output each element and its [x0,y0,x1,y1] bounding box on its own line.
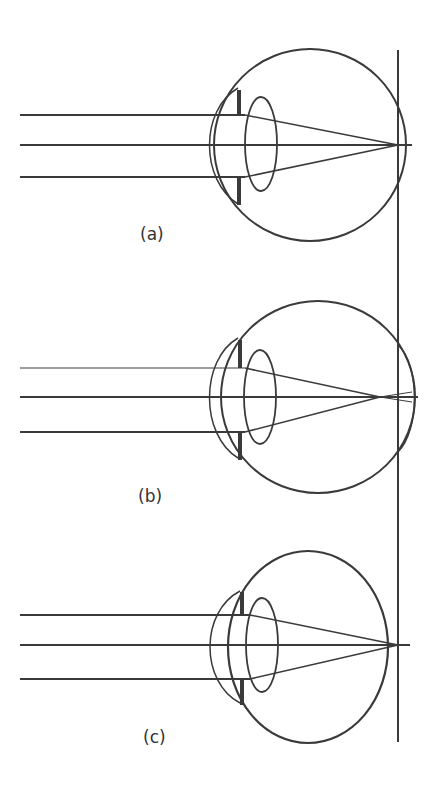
refracted-ray-bottom [245,145,398,177]
eye-optics-diagram [0,0,434,786]
panel-c-label: (c) [143,727,166,747]
refracted-ray-bottom [245,397,380,432]
panel-b-label: (b) [138,486,162,506]
eyeball [228,551,388,743]
refracted-ray-top [245,115,398,145]
refracted-ray-top [250,615,398,645]
panel-a-normal-eye [20,49,412,241]
refracted-ray-bottom [250,645,398,679]
refracted-ray-top [245,368,380,397]
panel-b-myopic-eye [20,301,418,493]
panel-c-hyperopic-eye [20,551,410,743]
panel-a-label: (a) [140,224,164,244]
